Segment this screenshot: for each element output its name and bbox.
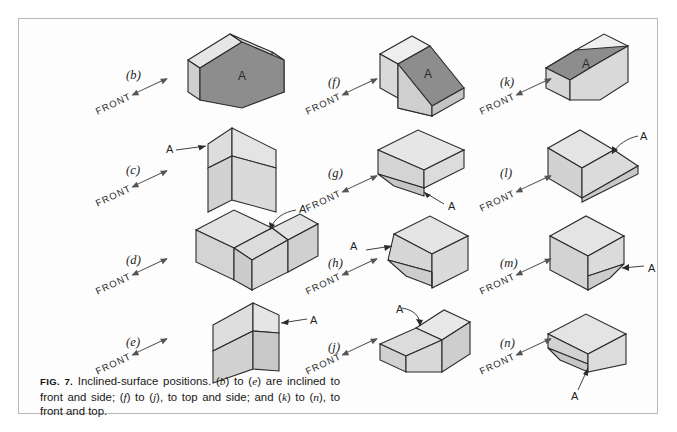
panel-b-drawing: A — [168, 26, 308, 116]
panel-n-drawing — [538, 306, 668, 390]
panel-label-g: (g) — [328, 166, 343, 181]
caption-seg-5: ), to top and side; and ( — [156, 391, 282, 403]
front-label-d: FRONT — [94, 270, 133, 296]
caption-seg-4: ) to ( — [127, 391, 153, 403]
surface-label-m: A — [648, 262, 655, 274]
panel-g-drawing — [368, 126, 498, 208]
panel-f: A — [366, 28, 496, 120]
figure-number: FIG. 7. — [40, 376, 73, 387]
front-arrow-line-h — [342, 258, 377, 275]
panel-l — [538, 122, 673, 208]
surface-label-b: A — [238, 69, 246, 83]
caption-seg-2: ) to ( — [225, 375, 252, 387]
surface-label-e: A — [310, 314, 317, 326]
panel-label-l: (l) — [500, 166, 512, 181]
panel-f-drawing: A — [366, 28, 496, 120]
panel-l-drawing — [538, 122, 673, 208]
surface-label-c: A — [166, 143, 173, 155]
panel-d-drawing — [188, 200, 338, 292]
figure-caption: FIG. 7. Inclined-surface positions. (b) … — [40, 374, 340, 419]
surface-label-n: A — [571, 390, 578, 402]
panel-k: A — [538, 26, 668, 122]
front-label-f: FRONT — [304, 90, 343, 116]
front-label-e: FRONT — [94, 350, 133, 376]
panel-d — [188, 200, 338, 292]
caption-seg-1: Inclined-surface positions. ( — [78, 375, 220, 387]
figure-drawing-area: A (b) FRONT A (c) — [18, 18, 658, 414]
surface-label-f: A — [424, 67, 432, 81]
surface-label-k: A — [582, 57, 590, 71]
panel-k-drawing: A — [538, 26, 668, 122]
panel-c-drawing — [198, 116, 328, 208]
panel-label-k: (k) — [500, 75, 514, 90]
surface-label-l: A — [640, 130, 647, 142]
surface-label-j: A — [396, 303, 403, 315]
panel-m — [540, 210, 670, 300]
figure-page: A (b) FRONT A (c) — [0, 0, 677, 432]
surface-label-h: A — [350, 240, 357, 252]
panel-g — [368, 126, 498, 208]
panel-c — [198, 116, 328, 208]
front-label-b: FRONT — [94, 90, 133, 116]
front-label-c: FRONT — [94, 182, 133, 208]
panel-m-drawing — [540, 210, 670, 300]
panel-n — [538, 306, 668, 390]
panel-label-f: (f) — [328, 75, 340, 90]
panel-label-c: (c) — [126, 163, 140, 178]
panel-b: A — [168, 26, 308, 116]
panel-label-b: (b) — [126, 68, 141, 83]
caption-seg-6: ) to ( — [287, 391, 313, 403]
